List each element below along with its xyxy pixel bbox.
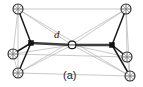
node-apex-left (29, 41, 34, 46)
light-edge (13, 54, 127, 57)
panel-label: (a) (63, 70, 76, 81)
distance-label: d (54, 29, 60, 40)
distance-axis-left (31, 43, 72, 45)
node-apex-right (110, 43, 115, 48)
node-crossed-circle (8, 49, 18, 59)
node-crossed-circle (122, 52, 132, 62)
node-center (68, 41, 75, 48)
node-crossed-circle (13, 4, 23, 14)
light-edge (72, 9, 126, 45)
figure-panel-a: d (a) (0, 0, 143, 87)
node-crossed-circle (125, 71, 135, 81)
node-crossed-circle (121, 4, 131, 14)
dark-edge (112, 9, 126, 45)
node-crossed-circle (13, 68, 23, 78)
light-edge (126, 9, 127, 57)
light-edge (13, 9, 18, 54)
light-edge (18, 9, 72, 45)
